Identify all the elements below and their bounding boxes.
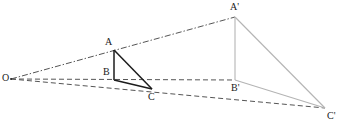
vertex-label-A: A — [105, 37, 112, 47]
segment-B-C — [114, 80, 152, 89]
ray-OB-Bp — [11, 79, 235, 80]
projection-rays — [11, 17, 325, 108]
vertex-label-B-prime: B' — [231, 83, 239, 93]
vertex-label-B: B — [103, 67, 110, 77]
figure-canvas — [0, 0, 341, 126]
ray-OA-Ap — [11, 17, 235, 79]
point-O-marker — [10, 78, 12, 80]
geometry-figure: O A B C A' B' C' — [0, 0, 341, 126]
vertex-label-C-prime: C' — [327, 111, 335, 121]
segment-A-C — [114, 50, 152, 89]
triangle-ApBpCp — [235, 17, 325, 108]
vertex-label-O: O — [2, 73, 9, 83]
vertex-label-C: C — [148, 92, 155, 102]
vertex-label-A-prime: A' — [230, 2, 239, 12]
triangle-ABC — [114, 50, 152, 89]
